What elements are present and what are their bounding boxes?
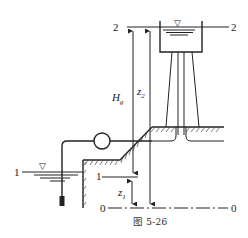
tank-free-surface-icon: ▽ — [174, 18, 181, 28]
level-2-label-left: 2 — [113, 21, 119, 33]
z1-label: z1 — [117, 186, 126, 201]
dimension-hg: Hg — [111, 31, 133, 173]
elevated-tank: ▽ — [160, 18, 202, 52]
pump-system-diagram: 2 2 ▽ — [0, 0, 248, 238]
figure-caption: 图 5-26 — [133, 216, 167, 227]
level-2-label-right: 2 — [231, 21, 237, 33]
datum-label-left: 0 — [100, 202, 106, 214]
dimension-z2: z2 — [136, 31, 150, 204]
pump-icon — [94, 133, 110, 149]
tank-support-legs — [166, 52, 199, 127]
tank-water-ripples — [163, 30, 195, 35]
level-1-label-left: 1 — [14, 166, 20, 178]
lower-reservoir: ▽ — [22, 161, 83, 181]
level-1-label-right: 1 — [96, 170, 102, 182]
z2-label: z2 — [136, 85, 145, 100]
foot-valve-icon — [60, 196, 65, 206]
dimension-z1: z1 — [117, 181, 132, 204]
reservoir-free-surface-icon: ▽ — [39, 161, 46, 171]
suction-pipe — [60, 141, 95, 206]
slope-hatching — [83, 132, 147, 206]
hg-label: Hg — [111, 91, 124, 106]
datum-label-right: 0 — [231, 202, 237, 214]
delivery-pipe — [178, 52, 184, 135]
upper-ground — [151, 127, 224, 132]
